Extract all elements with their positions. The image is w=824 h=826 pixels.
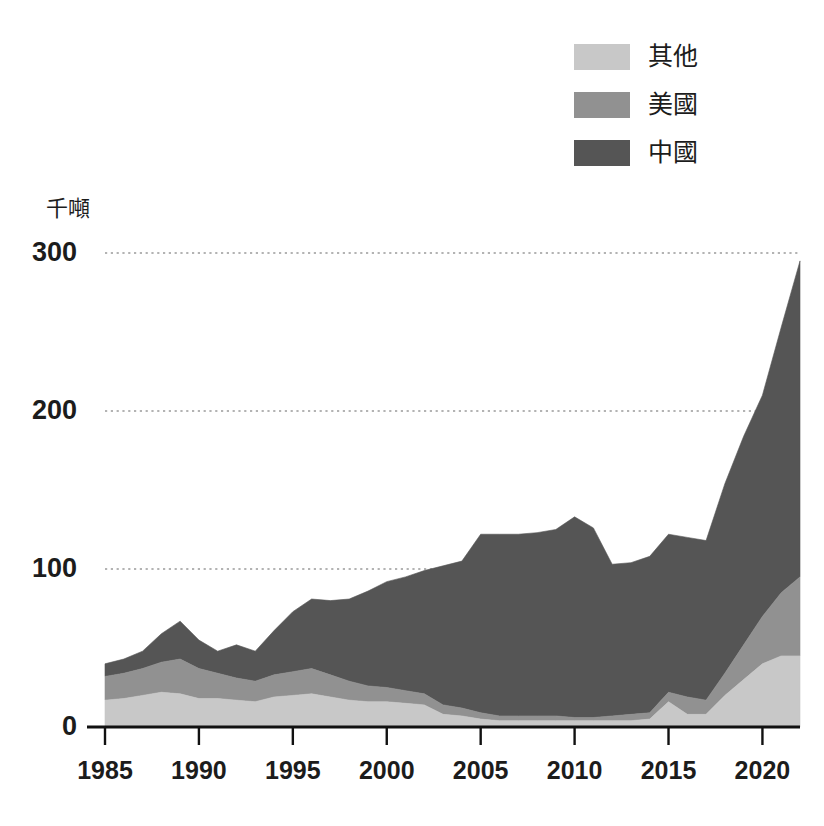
stacked-area-chart: 其他 美國 中國 千噸 0100200300 19851990199520002… [0, 0, 824, 826]
x-tick-label-2020: 2020 [735, 756, 791, 784]
axis-group [87, 727, 800, 745]
x-tick-labels: 19851990199520002005201020152020 [77, 756, 790, 784]
x-tick-label-2000: 2000 [359, 756, 415, 784]
x-tick-label-2010: 2010 [547, 756, 603, 784]
y-tick-label-300: 300 [32, 237, 77, 267]
plot-area: 0100200300 19851990199520002005201020152… [0, 0, 824, 826]
y-tick-labels: 0100200300 [32, 237, 77, 741]
y-tick-label-100: 100 [32, 553, 77, 583]
plot-svg: 0100200300 19851990199520002005201020152… [0, 0, 824, 826]
x-tick-label-1995: 1995 [265, 756, 321, 784]
x-tick-label-1990: 1990 [171, 756, 227, 784]
x-tick-label-2005: 2005 [453, 756, 509, 784]
area-series-中國 [105, 261, 800, 718]
y-tick-label-0: 0 [62, 711, 77, 741]
y-tick-label-200: 200 [32, 395, 77, 425]
x-tick-label-2015: 2015 [641, 756, 697, 784]
area-series-group [105, 261, 800, 727]
x-tick-label-1985: 1985 [77, 756, 133, 784]
gridlines [105, 253, 800, 569]
